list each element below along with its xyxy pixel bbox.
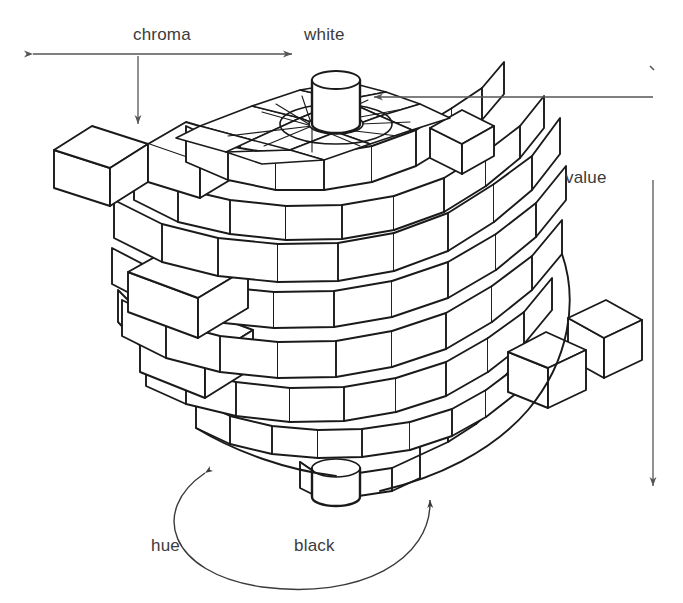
value-axis-tick: [650, 66, 654, 70]
color-solid-body: [54, 62, 642, 506]
black-label: black: [294, 536, 335, 556]
black-cylinder: [312, 459, 360, 506]
white-label: white: [304, 25, 345, 45]
munsell-color-solid-figure: [0, 0, 683, 603]
value-label: value: [565, 168, 607, 188]
hue-label: hue: [151, 536, 180, 556]
white-cylinder: [312, 71, 360, 133]
chroma-label: chroma: [133, 25, 191, 45]
